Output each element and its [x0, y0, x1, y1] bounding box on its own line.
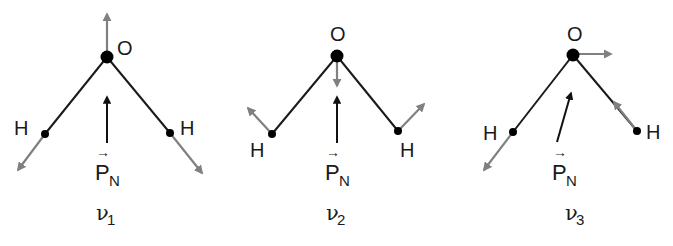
hydrogen-atom-left [509, 128, 517, 136]
vector-mark: → [326, 144, 340, 160]
hydrogen-label-left: H [250, 139, 264, 161]
dipole-label: → P N [552, 144, 577, 189]
h-left-displacement-arrow-icon [18, 134, 45, 170]
dipole-symbol: P [325, 160, 340, 185]
bond-oh-right [107, 57, 170, 133]
vector-mark: → [553, 144, 567, 160]
hydrogen-label-left: H [483, 122, 497, 144]
svg-text:3: 3 [576, 211, 584, 228]
vector-mark: → [96, 144, 110, 160]
oxygen-atom [331, 50, 344, 63]
bond-oh-left [45, 57, 107, 134]
hydrogen-atom-right [166, 129, 174, 137]
mode-nu2: O H H → P N ν 2 [248, 23, 424, 228]
h-left-displacement-arrow-icon [248, 108, 272, 134]
hydrogen-label-left: H [14, 117, 28, 139]
vibrational-modes-diagram: O H H → P N ν 1 O H H → P N ν [0, 0, 673, 246]
bond-oh-right [337, 56, 398, 131]
dipole-label: → P N [325, 144, 350, 189]
svg-text:2: 2 [337, 211, 345, 228]
dipole-subscript: N [109, 172, 120, 189]
dipole-subscript: N [566, 172, 577, 189]
hydrogen-atom-left [268, 130, 276, 138]
dipole-subscript: N [339, 172, 350, 189]
h-right-displacement-arrow-icon [614, 102, 637, 131]
hydrogen-atom-right [633, 127, 641, 135]
dipole-symbol: P [552, 160, 567, 185]
h-right-displacement-arrow-icon [398, 104, 424, 131]
mode-nu1: O H H → P N ν 1 [14, 14, 202, 228]
dipole-arrow-icon [557, 93, 571, 142]
hydrogen-atom-right [394, 127, 402, 135]
mode-nu3: O H H → P N ν 3 [483, 23, 660, 228]
h-right-displacement-arrow-icon [170, 133, 202, 173]
bond-oh-left [272, 56, 337, 134]
oxygen-atom [101, 51, 114, 64]
dipole-label: → P N [95, 144, 120, 189]
oxygen-label: O [330, 23, 346, 45]
oxygen-label: O [567, 23, 583, 45]
hydrogen-label-right: H [646, 121, 660, 143]
oxygen-atom [567, 49, 580, 62]
mode-label-nu1: ν 1 [96, 201, 115, 228]
hydrogen-label-right: H [180, 117, 194, 139]
oxygen-label: O [117, 37, 133, 59]
svg-text:1: 1 [107, 211, 115, 228]
hydrogen-atom-left [41, 130, 49, 138]
hydrogen-label-right: H [400, 139, 414, 161]
mode-label-nu3: ν 3 [565, 201, 584, 228]
dipole-symbol: P [95, 160, 110, 185]
mode-label-nu2: ν 2 [326, 201, 345, 228]
